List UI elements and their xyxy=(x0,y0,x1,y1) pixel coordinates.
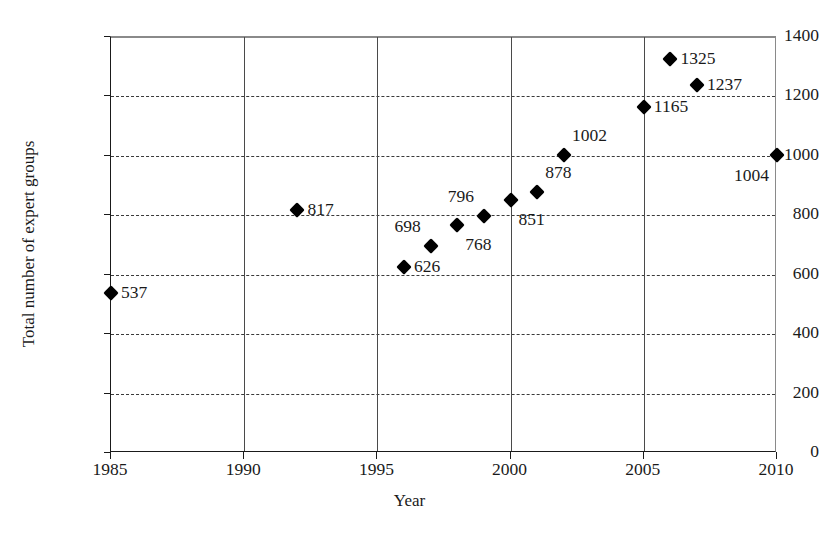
data-point-marker xyxy=(663,52,679,68)
x-tick-mark xyxy=(776,452,777,459)
data-point-label: 1165 xyxy=(654,98,688,116)
x-tick-mark xyxy=(110,452,111,459)
horizontal-gridline xyxy=(111,275,775,276)
data-point-marker xyxy=(103,286,119,302)
data-point-marker xyxy=(529,184,545,200)
data-point-marker xyxy=(476,209,492,225)
x-axis-title: Year xyxy=(0,492,819,509)
data-point-label: 817 xyxy=(307,201,333,219)
data-point-label: 878 xyxy=(545,164,571,182)
horizontal-gridline xyxy=(111,394,775,395)
data-point-label: 1237 xyxy=(707,77,742,95)
data-point-label: 1004 xyxy=(734,167,769,185)
data-point-label: 1002 xyxy=(572,127,607,145)
data-point-marker xyxy=(636,99,652,115)
x-tick-mark xyxy=(510,452,511,459)
plot-area: 5378176266987687968518781002116513251237… xyxy=(110,36,776,452)
data-point-marker xyxy=(396,259,412,275)
y-axis-title: Total number of expert groups xyxy=(14,36,44,452)
data-point-label: 851 xyxy=(519,211,545,229)
x-tick-mark xyxy=(376,452,377,459)
x-tick-mark xyxy=(243,452,244,459)
horizontal-gridline xyxy=(111,215,775,216)
data-point-label: 796 xyxy=(448,188,474,206)
horizontal-gridline xyxy=(111,334,775,335)
x-tick-label: 1985 xyxy=(93,461,128,479)
x-tick-label: 1995 xyxy=(359,461,394,479)
data-point-marker xyxy=(450,217,466,233)
vertical-gridline xyxy=(377,37,378,451)
data-point-marker xyxy=(689,78,705,94)
data-point-label: 626 xyxy=(414,258,440,276)
x-tick-mark xyxy=(643,452,644,459)
x-tick-label: 1990 xyxy=(226,461,261,479)
data-point-label: 698 xyxy=(394,217,420,235)
x-tick-label: 2000 xyxy=(492,461,527,479)
x-tick-label: 2010 xyxy=(759,461,794,479)
data-point-label: 768 xyxy=(465,236,491,254)
horizontal-gridline xyxy=(111,156,775,157)
x-tick-label: 2005 xyxy=(625,461,660,479)
data-point-marker xyxy=(503,192,519,208)
horizontal-gridline xyxy=(111,37,775,38)
data-point-label: 1325 xyxy=(680,51,715,69)
vertical-gridline xyxy=(511,37,512,451)
vertical-gridline xyxy=(244,37,245,451)
data-point-marker xyxy=(423,238,439,254)
data-point-label: 537 xyxy=(121,285,147,303)
scatter-chart: Total number of expert groups Year 02004… xyxy=(0,0,819,533)
